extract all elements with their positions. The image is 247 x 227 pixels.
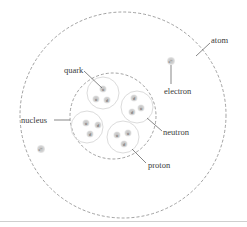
bottom-divider [0,221,247,222]
neutron-leader-line [147,118,162,131]
nucleon-top: u u d [87,77,119,109]
quark-leader-line [84,71,102,88]
nucleus-boundary [70,73,156,159]
neutron-label: neutron [163,128,189,137]
atom-leader-line [196,43,210,56]
quark-label: quark [64,66,83,75]
nucleon-neutron: d d u [121,91,153,123]
proton-label: proton [148,161,170,170]
atom-diagram: u u d d d u u d d u u d e⁻ e⁻ [0,0,247,227]
electron-label: electron [164,87,191,96]
electron-top-right: e⁻ [167,57,175,65]
atom-label: atom [211,36,228,45]
svg-text:e⁻: e⁻ [39,147,44,152]
svg-text:e⁻: e⁻ [169,59,174,64]
proton-leader-line [132,149,146,163]
electron-bottom-left: e⁻ [37,145,45,153]
nucleon-proton: u u d [107,121,139,153]
nucleon-left: u d d [71,111,103,143]
nucleus-label: nucleus [21,116,47,125]
